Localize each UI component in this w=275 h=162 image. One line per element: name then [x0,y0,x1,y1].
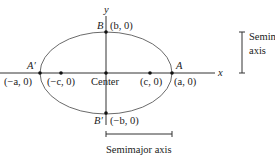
vertex-b-point [104,30,108,34]
center-label: Center [91,76,119,87]
semimajor-bracket [106,131,172,137]
focus-left-point [59,71,63,75]
ellipse-diagram: x y A′ (−a, 0) (−c, 0) Center (c, 0) A (… [0,0,275,162]
semiminor-label-line2: axis [249,45,266,56]
vertex-a-prime-coord: (−a, 0) [4,76,33,88]
vertex-b-prime-point [104,111,108,115]
vertex-b-label: B [97,20,104,31]
focus-right-coord: (c, 0) [140,76,163,88]
y-axis-label: y [103,4,109,15]
vertex-a-prime-point [38,71,42,75]
x-axis-label: x [217,67,223,78]
semiminor-label-line1: Semiminor [249,31,275,42]
vertex-a-prime-label: A′ [26,60,36,71]
vertex-b-prime-coord: (−b, 0) [110,115,139,127]
vertex-a-point [170,71,174,75]
vertex-b-coord: (b, 0) [110,20,133,32]
vertex-a-label: A [175,60,183,71]
center-point [104,71,108,75]
semimajor-label: Semimajor axis [106,144,172,155]
vertex-a-coord: (a, 0) [174,76,197,88]
vertex-b-prime-label: B′ [94,115,103,126]
semiminor-bracket [239,32,245,73]
focus-right-point [148,71,152,75]
focus-left-coord: (−c, 0) [47,76,76,88]
